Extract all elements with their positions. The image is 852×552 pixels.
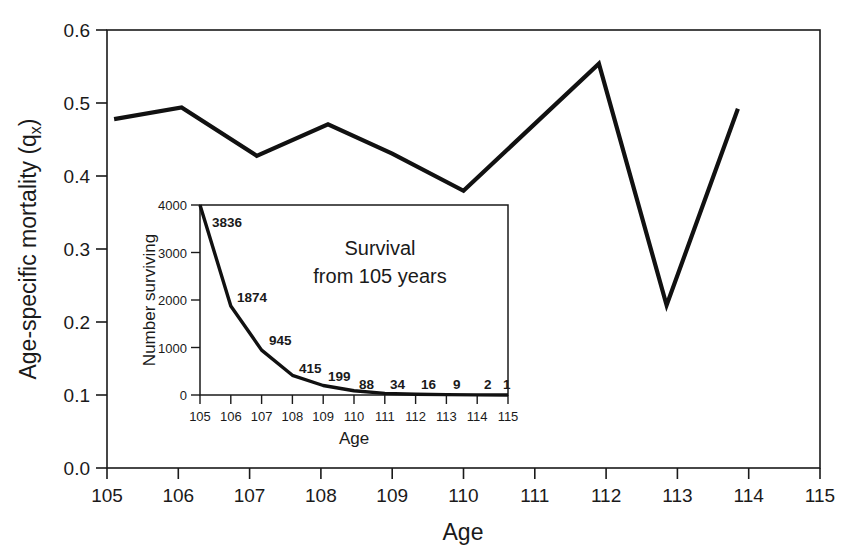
x-tick-label: 108 (305, 485, 337, 506)
inset-x-axis-title: Age (339, 429, 369, 448)
inset-x-tick-label: 113 (436, 409, 457, 424)
inset-y-tick-label: 4000 (158, 198, 187, 213)
inset-x-tick-label: 115 (498, 409, 519, 424)
x-tick-label: 110 (448, 485, 478, 506)
inset-x-tick-labels: 105 106 107 108 109 110 111 112 113 114 … (189, 409, 518, 424)
inset-y-axis-title: Number surviving (140, 234, 159, 366)
y-tick-label: 0.4 (64, 166, 91, 187)
inset-x-tick-label: 106 (220, 409, 242, 424)
x-tick-label: 109 (376, 485, 408, 506)
inset-y-tick-label: 1000 (158, 341, 187, 356)
main-y-ticks (96, 30, 107, 468)
main-x-ticks (107, 468, 820, 479)
y-tick-label: 0.5 (64, 93, 90, 114)
inset-y-tick-label: 3000 (158, 246, 187, 261)
x-tick-label: 113 (662, 485, 692, 506)
inset-point-label: 945 (269, 333, 292, 348)
svg-text:Age-specific mortality (qx): Age-specific mortality (qx) (15, 118, 44, 379)
inset-point-label: 88 (359, 377, 375, 392)
inset-point-label: 199 (328, 369, 351, 384)
x-axis-title: Age (443, 519, 484, 545)
x-tick-label: 107 (234, 485, 266, 506)
y-axis-title-paren: ) (15, 118, 41, 126)
inset-point-label: 1874 (237, 290, 268, 305)
x-tick-label: 106 (162, 485, 194, 506)
main-y-tick-labels: 0.6 0.5 0.4 0.3 0.2 0.1 0.0 (64, 20, 91, 479)
y-axis-title-main: Age-specific mortality (q (15, 134, 41, 379)
inset-x-tick-label: 105 (189, 409, 211, 424)
y-tick-label: 0.1 (64, 385, 90, 406)
x-tick-label: 105 (91, 485, 123, 506)
inset-point-label: 9 (453, 377, 461, 392)
inset-x-tick-label: 108 (282, 409, 304, 424)
inset-x-tick-label: 110 (344, 409, 365, 424)
y-tick-label: 0.3 (64, 239, 90, 260)
inset-x-tick-label: 109 (312, 409, 334, 424)
y-axis-title: Age-specific mortality (qx) (15, 118, 44, 379)
inset-x-tick-label: 114 (467, 409, 488, 424)
inset-x-tick-label: 107 (251, 409, 273, 424)
inset-y-tick-label: 2000 (158, 293, 187, 308)
y-axis-title-subscript: x (27, 126, 44, 134)
inset-point-label: 16 (421, 377, 437, 392)
inset-y-tick-labels: 4000 3000 2000 1000 0 (158, 198, 187, 403)
x-tick-label: 112 (591, 485, 621, 506)
inset-point-label: 1 (503, 377, 511, 392)
main-x-tick-labels: 105 106 107 108 109 110 111 112 113 114 … (91, 485, 835, 506)
x-tick-label: 111 (520, 485, 549, 506)
x-tick-label: 114 (734, 485, 765, 506)
inset-point-label: 2 (484, 377, 492, 392)
inset-y-ticks (191, 205, 200, 395)
inset-y-tick-label: 0 (180, 388, 187, 403)
y-tick-label: 0.6 (64, 20, 90, 41)
inset-annotation-line2: from 105 years (313, 265, 446, 287)
inset-point-label: 34 (390, 377, 406, 392)
inset-point-label: 3836 (212, 215, 243, 230)
inset-annotation-line1: Survival (344, 237, 415, 259)
inset-x-tick-label: 111 (375, 409, 395, 424)
figure-container: 0.6 0.5 0.4 0.3 0.2 0.1 0.0 105 106 1 (0, 0, 852, 552)
y-tick-label: 0.2 (64, 312, 90, 333)
x-tick-label: 115 (805, 485, 835, 506)
inset-point-label: 415 (299, 361, 322, 376)
y-tick-label: 0.0 (64, 458, 90, 479)
inset-chart: 4000 3000 2000 1000 0 105 (140, 198, 518, 448)
inset-x-tick-label: 112 (405, 409, 426, 424)
mortality-chart-svg: 0.6 0.5 0.4 0.3 0.2 0.1 0.0 105 106 1 (0, 0, 852, 552)
svg-text:Number surviving: Number surviving (140, 234, 159, 366)
